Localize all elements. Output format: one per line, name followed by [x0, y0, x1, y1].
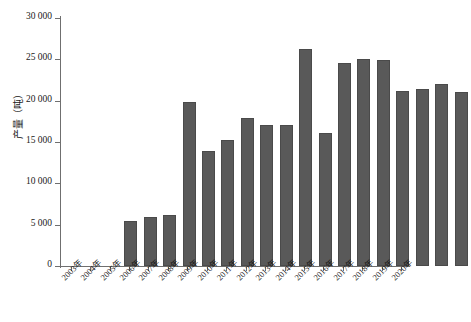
x-label-slot: 2011年 — [217, 272, 236, 320]
x-label-slot: 2019年 — [372, 272, 391, 320]
y-tick-label: 15 000 — [26, 135, 52, 145]
bar-slot — [296, 18, 315, 266]
bar — [221, 140, 234, 266]
bar — [299, 49, 312, 266]
bar-slot — [374, 18, 393, 266]
bar-slot — [140, 18, 159, 266]
bar — [455, 92, 468, 266]
y-tick-label: 0 — [47, 259, 52, 269]
y-tick-label: 30 000 — [26, 11, 52, 21]
bar-slot — [451, 18, 470, 266]
bar-slot — [257, 18, 276, 266]
y-tick-label: 25 000 — [26, 52, 52, 62]
bar — [183, 102, 196, 267]
bar-slot — [199, 18, 218, 266]
x-label-slot: 2004年 — [80, 272, 99, 320]
bar — [416, 89, 429, 266]
y-tick-label: 5 000 — [31, 218, 52, 228]
bar-slot — [413, 18, 432, 266]
x-label-slot: 2009年 — [178, 272, 197, 320]
x-label-slot: 2015年 — [294, 272, 313, 320]
bar — [396, 91, 409, 266]
x-label-slot: 2006年 — [119, 272, 138, 320]
bar-series — [121, 18, 471, 266]
y-axis-title: 产量（吨） — [10, 59, 25, 169]
bar-slot — [218, 18, 237, 266]
x-label-slot: 2014年 — [275, 272, 294, 320]
bar-slot — [335, 18, 354, 266]
bar — [357, 59, 370, 266]
x-label-slot: 2013年 — [255, 272, 274, 320]
bar-slot — [315, 18, 334, 266]
x-label-slot: 2005年 — [100, 272, 119, 320]
plot-area — [60, 18, 412, 266]
x-label-slot: 2008年 — [158, 272, 177, 320]
bar — [202, 151, 215, 266]
bar — [338, 63, 351, 266]
bar-slot — [179, 18, 198, 266]
bar-slot — [160, 18, 179, 266]
bar — [435, 84, 448, 266]
x-label-slot: 2007年 — [139, 272, 158, 320]
bar — [319, 133, 332, 266]
bar — [241, 118, 254, 266]
y-tick-label: 20 000 — [26, 94, 52, 104]
bar — [377, 60, 390, 266]
x-label-slot: 2010年 — [197, 272, 216, 320]
x-label-slot: 2003年 — [61, 272, 80, 320]
x-label-slot: 2018年 — [353, 272, 372, 320]
x-axis-labels: 2003年2004年2005年2006年2007年2008年2009年2010年… — [61, 272, 411, 320]
bar-slot — [393, 18, 412, 266]
x-label-slot: 2016年 — [314, 272, 333, 320]
bar — [280, 125, 293, 266]
bar-slot — [354, 18, 373, 266]
x-label-slot: 2020年 — [391, 272, 410, 320]
bar — [260, 125, 273, 266]
x-label-slot: 2017年 — [333, 272, 352, 320]
bar-slot — [277, 18, 296, 266]
x-label-slot: 2012年 — [236, 272, 255, 320]
bar-slot — [238, 18, 257, 266]
bar-slot — [121, 18, 140, 266]
bar-slot — [432, 18, 451, 266]
y-tick-label: 10 000 — [26, 176, 52, 186]
